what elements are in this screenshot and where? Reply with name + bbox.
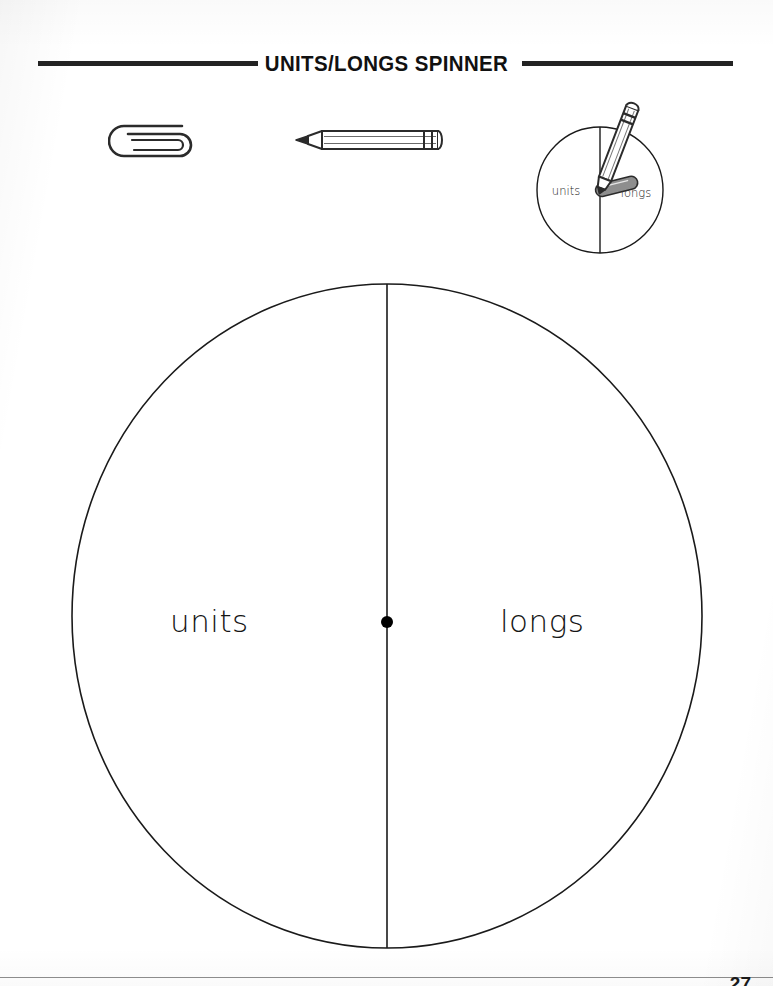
demo-spinner-illustration: units longs — [516, 74, 696, 264]
footer-rule — [0, 977, 773, 978]
pencil-icon — [288, 120, 458, 164]
main-label-units: units — [170, 603, 249, 639]
page-number: 27 — [730, 974, 751, 986]
center-dot — [381, 616, 393, 628]
main-label-longs: longs — [500, 603, 584, 639]
demo-label-units: units — [552, 184, 580, 198]
main-spinner: units longs — [60, 274, 716, 964]
worksheet-page: UNITS/LONGS SPINNER — [0, 0, 773, 986]
paperclip-icon — [108, 122, 200, 172]
